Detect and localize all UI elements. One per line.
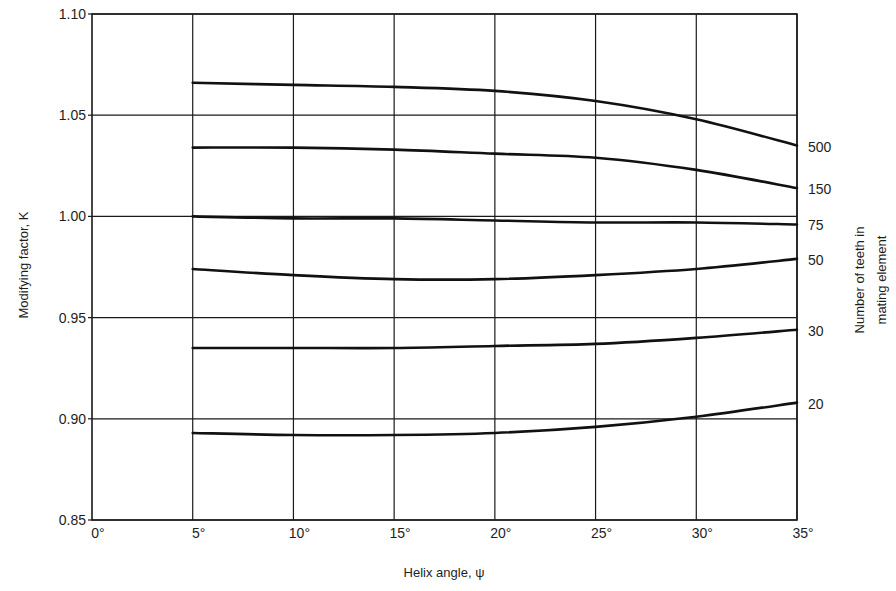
series-label-30: 30 xyxy=(808,323,824,339)
x-tick-label: 30° xyxy=(692,525,713,541)
y-tick-label: 1.00 xyxy=(59,208,86,224)
y-tick-label: 0.95 xyxy=(59,310,86,326)
series-label-20: 20 xyxy=(808,396,824,412)
series-label-50: 50 xyxy=(808,252,824,268)
plot-frame xyxy=(92,14,797,520)
x-axis-ticks: 0°5°10°15°20°25°30°35° xyxy=(91,525,813,541)
series-label-500: 500 xyxy=(808,139,832,155)
y-axis-ticks: 0.850.900.951.001.051.10 xyxy=(59,6,92,528)
series-label-150: 150 xyxy=(808,181,832,197)
x-axis-title: Helix angle, ψ xyxy=(404,565,485,580)
x-tick-label: 20° xyxy=(490,525,511,541)
y-tick-label: 0.90 xyxy=(59,411,86,427)
right-axis-title-line2: mating element xyxy=(874,235,889,324)
x-tick-label: 25° xyxy=(591,525,612,541)
series-end-labels: 50015075503020 xyxy=(808,139,832,412)
x-tick-label: 0° xyxy=(91,525,104,541)
y-tick-label: 1.05 xyxy=(59,107,86,123)
x-tick-label: 5° xyxy=(192,525,205,541)
y-tick-label: 1.10 xyxy=(59,6,86,22)
y-axis-title: Modifying factor, K xyxy=(16,211,31,318)
series-label-75: 75 xyxy=(808,217,824,233)
x-tick-label: 35° xyxy=(792,525,813,541)
x-tick-label: 10° xyxy=(289,525,310,541)
x-tick-label: 15° xyxy=(390,525,411,541)
right-axis-title-line1: Number of teeth in xyxy=(852,227,867,334)
y-tick-label: 0.85 xyxy=(59,512,86,528)
helix-factor-chart: 0.850.900.951.001.051.10 0°5°10°15°20°25… xyxy=(0,0,896,591)
grid-lines xyxy=(92,14,797,520)
